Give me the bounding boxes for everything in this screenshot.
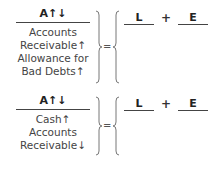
asset-item: Cash↑ (16, 113, 90, 126)
left-brace-icon (112, 96, 120, 156)
asset-item: Receivable↑ (16, 39, 90, 52)
equation-block-1: A↑↓ Accounts Receivable↑ Allowance for B… (0, 0, 218, 88)
liabilities-equity: L + E (124, 11, 208, 25)
equity-slot: E (178, 11, 208, 25)
asset-item: Accounts (16, 26, 90, 39)
plus-sign: + (161, 98, 171, 111)
liabilities-slot: L (124, 11, 154, 25)
left-brace-icon (112, 10, 120, 84)
assets-header: A↑↓ (16, 7, 90, 23)
right-brace-icon (95, 10, 103, 84)
equation-block-2: A↑↓ Cash↑ Accounts Receivable↓ = L + E (0, 88, 218, 172)
liabilities-slot: L (124, 97, 154, 111)
assets-column: A↑↓ Accounts Receivable↑ Allowance for B… (16, 7, 90, 78)
equals-sign: = (103, 41, 111, 52)
assets-header: A↑↓ (16, 94, 90, 110)
asset-item: Receivable↓ (16, 139, 90, 152)
asset-item: Allowance for (16, 52, 90, 65)
asset-items: Accounts Receivable↑ Allowance for Bad D… (16, 23, 90, 78)
liabilities-equity: L + E (124, 97, 208, 111)
asset-items: Cash↑ Accounts Receivable↓ (16, 110, 90, 152)
asset-item: Bad Debts↑ (16, 65, 90, 78)
plus-sign: + (161, 12, 171, 25)
assets-column: A↑↓ Cash↑ Accounts Receivable↓ (16, 94, 90, 152)
asset-item: Accounts (16, 126, 90, 139)
right-brace-icon (95, 96, 103, 156)
equity-slot: E (178, 97, 208, 111)
equals-sign: = (103, 120, 111, 131)
